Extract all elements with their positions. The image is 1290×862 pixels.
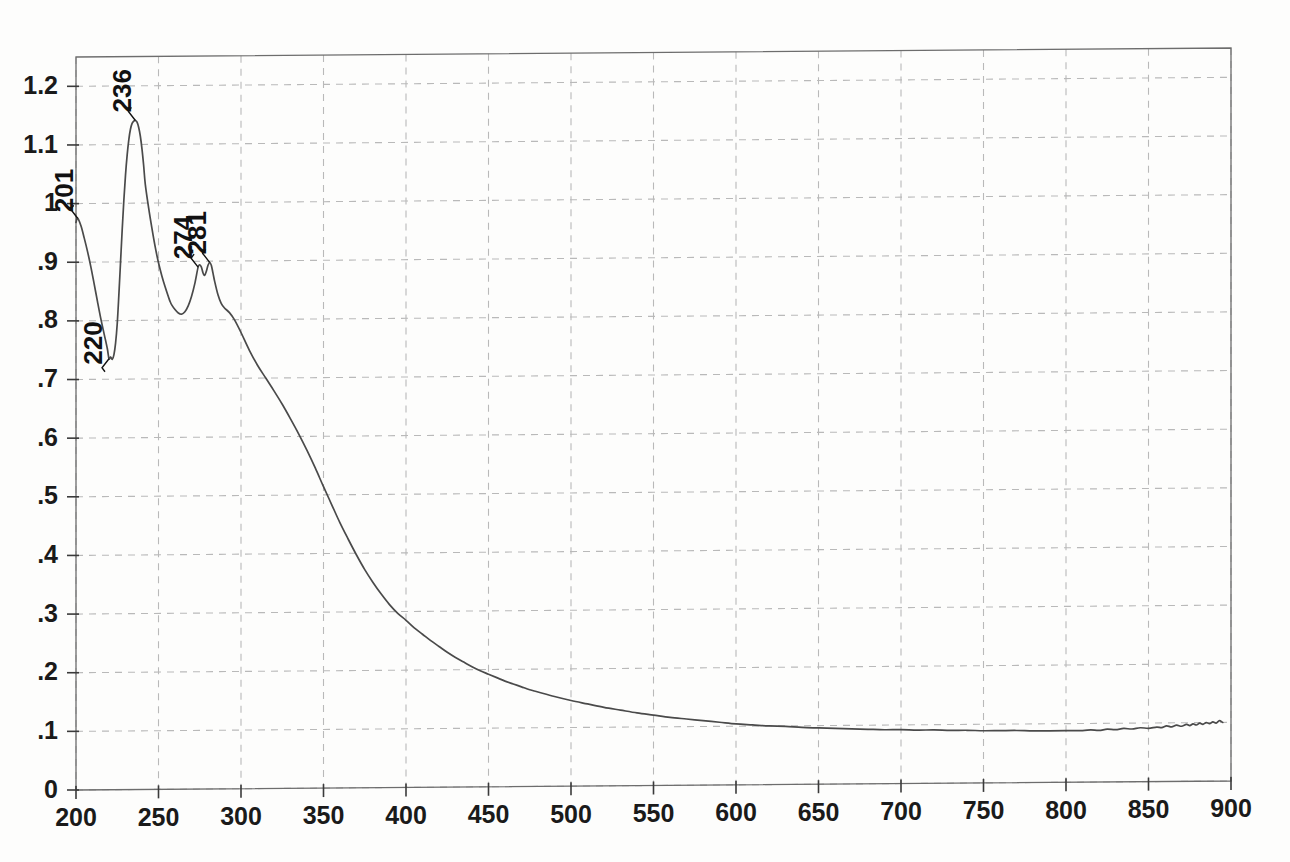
y-axis-tick-label: 1.1 <box>23 130 58 158</box>
peak-annotation: 281 <box>182 211 212 262</box>
spectrum-plot-svg: 0.1.2.3.4.5.6.7.8.911.11.2 2002503003504… <box>0 0 1290 862</box>
x-axis-tick-label: 900 <box>1210 794 1252 822</box>
uv-vis-spectrum-chart: 0.1.2.3.4.5.6.7.8.911.11.2 2002503003504… <box>0 0 1290 862</box>
peak-annotation: 201 <box>49 169 79 218</box>
y-axis-tick-label: .9 <box>37 247 58 275</box>
peak-label-220: 220 <box>78 321 108 364</box>
x-axis-tick-label: 600 <box>715 798 757 826</box>
x-axis-tick-label: 200 <box>55 803 97 831</box>
y-axis-tick-label: .4 <box>37 540 58 568</box>
x-axis-tick-label: 650 <box>798 798 840 826</box>
peak-label-281: 281 <box>182 211 212 254</box>
x-axis-tick-label: 800 <box>1045 796 1087 824</box>
x-axis-tick-label: 850 <box>1128 795 1170 823</box>
peak-label-201: 201 <box>49 169 79 212</box>
y-axis-tick-label: .8 <box>37 305 58 333</box>
x-axis-tick-label: 300 <box>220 802 262 830</box>
y-axis-tick-label: .7 <box>37 364 58 392</box>
x-axis-tick-label: 550 <box>633 799 675 827</box>
x-axis-tick-label: 250 <box>138 803 180 831</box>
y-axis-tick-label: .6 <box>37 423 58 451</box>
chart-background <box>0 0 1290 862</box>
y-axis-tick-label: .5 <box>37 481 58 509</box>
y-axis-tick-label: .1 <box>37 716 58 744</box>
x-axis-tick-label: 450 <box>468 800 510 828</box>
y-axis-tick-label: 1.2 <box>23 71 58 99</box>
y-axis-tick-label: .3 <box>37 599 58 627</box>
y-axis-tick-label: .2 <box>37 657 58 685</box>
peak-annotation: 236 <box>107 69 137 120</box>
x-axis-tick-label: 400 <box>385 801 427 829</box>
x-axis-tick-label: 750 <box>963 796 1005 824</box>
x-axis-tick-label: 700 <box>880 797 922 825</box>
x-axis-tick-label: 500 <box>550 800 592 828</box>
y-axis-tick-label: 0 <box>44 775 58 803</box>
x-axis-tick-label: 350 <box>303 801 345 829</box>
peak-label-236: 236 <box>107 69 137 112</box>
peak-annotation: 220 <box>78 321 109 371</box>
